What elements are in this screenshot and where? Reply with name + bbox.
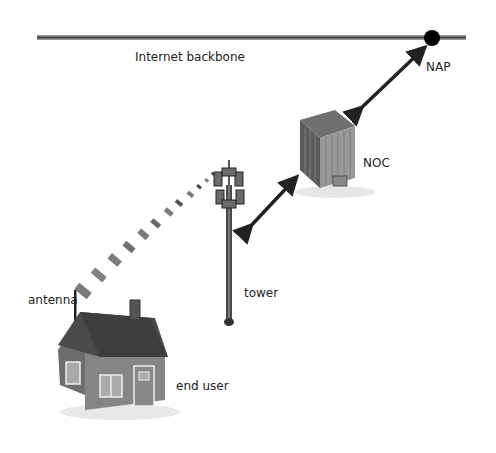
noc-building-icon [295, 110, 375, 198]
network-diagram [0, 0, 496, 453]
end-user-label: end user [176, 379, 229, 393]
wireless-signal-beam [74, 172, 215, 299]
nap-node [424, 30, 440, 46]
end-user-house-icon [58, 290, 180, 420]
nap-label: NAP [426, 60, 450, 74]
cell-tower-icon [214, 160, 244, 326]
noc-label: NOC [363, 156, 390, 170]
backbone-label: Internet backbone [135, 50, 245, 64]
tower-noc-arrow [247, 182, 292, 230]
antenna-label: antenna [28, 293, 78, 307]
tower-label: tower [244, 286, 278, 300]
internet-backbone-line [37, 35, 466, 40]
nap-noc-arrow [357, 52, 420, 112]
